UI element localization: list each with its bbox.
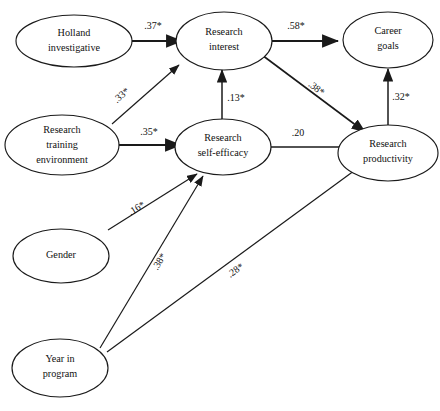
node-label-line2: productivity xyxy=(363,153,414,164)
path-label-training-efficacy: .35* xyxy=(140,126,158,137)
node-gender[interactable]: Gender xyxy=(13,229,109,283)
node-holland-investigative[interactable]: Holland investigative xyxy=(16,15,132,67)
node-research-self-efficacy[interactable]: Research self-efficacy xyxy=(175,119,271,175)
node-label-line2: training xyxy=(46,139,78,150)
node-label-line2: investigative xyxy=(48,42,101,53)
node-label-line1: Holland xyxy=(58,27,91,38)
node-label-line2: program xyxy=(43,368,78,379)
path-line xyxy=(107,165,362,352)
path-label-interest-goals: .58* xyxy=(287,20,305,31)
node-label-line1: Year in xyxy=(45,353,74,364)
path-label-year-efficacy: .38* xyxy=(150,251,168,272)
node-label-line1: Career xyxy=(374,25,402,36)
path-line xyxy=(262,55,365,132)
path-year-efficacy: .38* xyxy=(100,176,203,348)
path-training-interest: .33* xyxy=(111,65,179,124)
path-line xyxy=(108,174,197,230)
node-label-line1: Research xyxy=(369,138,406,149)
path-year-productivity: .28* xyxy=(107,165,362,352)
node-label-line2: interest xyxy=(209,41,239,52)
node-research-productivity[interactable]: Research productivity xyxy=(338,125,438,181)
path-label-efficacy-interest: .13* xyxy=(227,92,245,103)
node-ellipse xyxy=(16,15,132,67)
path-productivity-goals: .32* xyxy=(388,69,410,125)
node-label-line2: goals xyxy=(377,40,399,51)
path-interest-goals: .58* xyxy=(266,20,338,41)
node-research-training-environment[interactable]: Research training environment xyxy=(5,115,119,175)
path-label-gender-efficacy: .16* xyxy=(126,199,147,218)
node-career-goals[interactable]: Career goals xyxy=(343,12,433,68)
path-label-efficacy-productivity: .20 xyxy=(292,127,305,138)
path-label-training-interest: .33* xyxy=(111,85,131,105)
node-label-line2: self-efficacy xyxy=(198,147,250,158)
node-year-in-program[interactable]: Year in program xyxy=(12,339,108,397)
path-label-productivity-goals: .32* xyxy=(392,91,410,102)
node-label-line1: Research xyxy=(204,132,241,143)
node-label-line3: environment xyxy=(36,154,88,165)
path-efficacy-interest: .13* xyxy=(222,70,245,122)
node-label-line1: Gender xyxy=(46,249,77,260)
path-diagram-figure: .37* .33* .35* .13* .58* .38* xyxy=(0,0,440,411)
path-gender-efficacy: .16* xyxy=(108,174,197,230)
path-holland-interest: .37* xyxy=(132,20,182,41)
path-label-holland-interest: .37* xyxy=(144,20,162,31)
node-research-interest[interactable]: Research interest xyxy=(176,12,272,70)
node-label-line1: Research xyxy=(205,26,242,37)
path-training-efficacy: .35* xyxy=(118,126,181,145)
diagram-canvas: .37* .33* .35* .13* .58* .38* xyxy=(0,0,440,411)
path-label-interest-productivity: .38* xyxy=(306,78,327,97)
path-interest-productivity: .38* xyxy=(262,55,365,132)
node-label-line1: Research xyxy=(43,124,80,135)
